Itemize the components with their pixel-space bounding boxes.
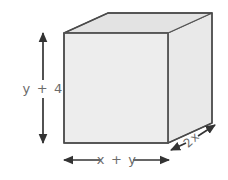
height-dimension: y + 4 — [22, 33, 63, 143]
prism-figure: y + 4 x + y 2x — [0, 0, 228, 180]
prism-side-face — [168, 13, 212, 143]
width-dimension: x + y — [64, 152, 169, 167]
width-label: x + y — [97, 152, 138, 167]
diagram-canvas: y + 4 x + y 2x — [0, 0, 228, 180]
prism-front-face — [64, 33, 168, 143]
height-label: y + 4 — [22, 81, 63, 96]
prism-body — [64, 13, 212, 143]
